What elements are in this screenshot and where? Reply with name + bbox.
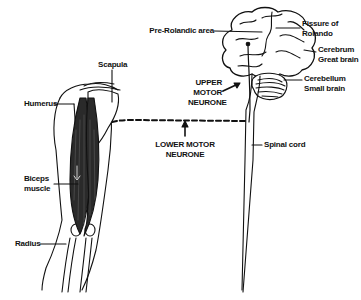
label-pre-rolandic-area: Pre-Rolandic area <box>136 26 214 36</box>
biceps-muscle-illustration <box>70 98 99 236</box>
label-cerebellum: Cerebellum Small brain <box>304 74 346 94</box>
label-cerebrum: Cerebrum Great brain <box>318 45 358 65</box>
label-upper-line2: MOTOR <box>188 88 222 98</box>
upper-motor-neurone-fibre <box>248 44 250 122</box>
label-radius: Radius <box>15 239 40 249</box>
label-cerebellum-line2: Small brain <box>304 84 346 94</box>
label-lower-line1: LOWER MOTOR <box>150 140 220 150</box>
cerebellum-illustration <box>252 73 287 99</box>
label-cerebrum-line2: Great brain <box>318 55 358 65</box>
label-cerebellum-line1: Cerebellum <box>304 74 346 84</box>
label-lower-motor-neurone: LOWER MOTOR NEURONE <box>150 140 220 160</box>
label-biceps-line2: muscle <box>24 184 50 194</box>
label-biceps-muscle: Biceps muscle <box>24 174 50 194</box>
label-scapula: Scapula <box>98 60 127 70</box>
label-fissure-of-rolando: Fissure of Rolando <box>302 19 338 39</box>
spinal-cord-illustration <box>242 74 260 292</box>
label-biceps-line1: Biceps <box>24 174 50 184</box>
label-cerebrum-line1: Cerebrum <box>318 45 358 55</box>
neurone-cell-body <box>246 42 250 46</box>
label-humerus: Humerus <box>24 99 57 109</box>
motor-pathway-diagram: Pre-Rolandic area Fissure of Rolando Cer… <box>0 0 361 300</box>
label-upper-motor-neurone: UPPER MOTOR NEURONE <box>188 78 222 108</box>
label-upper-line3: NEURONE <box>188 98 222 108</box>
label-lower-line2: NEURONE <box>150 150 220 160</box>
label-fissure-line2: Rolando <box>302 29 338 39</box>
label-fissure-line1: Fissure of <box>302 19 338 29</box>
label-spinal-cord: Spinal cord <box>264 140 305 150</box>
label-upper-line1: UPPER <box>188 78 222 88</box>
